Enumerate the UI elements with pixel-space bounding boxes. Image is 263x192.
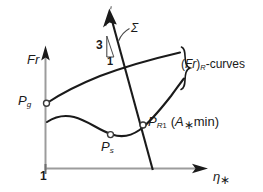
y-axis-label: Fr (27, 53, 39, 66)
sigma-line-arrowhead (103, 9, 117, 28)
sigma-line (110, 14, 153, 170)
slope-triangle (107, 36, 114, 57)
point-label-pg-base: P (18, 93, 27, 108)
point-label-pr1: PR1(A∗min) (148, 115, 219, 131)
point-markers (44, 100, 147, 137)
point-label-ps-base: P (101, 139, 110, 154)
slope-triangle-hypotenuse (107, 36, 114, 57)
fr-curves-italic: Fr (185, 57, 196, 71)
sigma-label: Σ (131, 22, 138, 34)
marker-pg (44, 100, 50, 106)
point-label-pr1-sub-num: 1 (162, 121, 166, 130)
marker-pr1 (140, 122, 146, 128)
marker-ps (108, 132, 114, 138)
point-label-ps: Ps (101, 140, 114, 155)
point-label-ps-sub: s (110, 146, 114, 155)
x-axis-label: η∗ (213, 170, 230, 186)
astar-base: A (175, 114, 184, 129)
point-label-pg-sub: g (27, 100, 31, 109)
fr-curves-tail: -curves (206, 57, 245, 71)
sigma-leader-line (119, 29, 130, 42)
point-label-pg: Pg (18, 94, 31, 109)
fr-curves-label: (Fr)R-curves (181, 58, 245, 72)
x-axis-origin-tick-label: 1 (40, 170, 47, 182)
astar-close: ) (215, 114, 219, 129)
astar-min: min (194, 114, 215, 129)
fr-curve-upper (47, 53, 180, 104)
point-label-pr1-base: P (148, 114, 157, 129)
slope-run-label: 1 (107, 56, 113, 67)
x-axis-label-star-icon: ∗ (220, 173, 230, 187)
froude-number-diagram: Fr Pg Ps PR1(A∗min) (Fr)R-curves Σ 3 1 1… (0, 0, 263, 192)
astar-star-icon: ∗ (184, 118, 194, 132)
slope-rise-label: 3 (96, 39, 103, 51)
